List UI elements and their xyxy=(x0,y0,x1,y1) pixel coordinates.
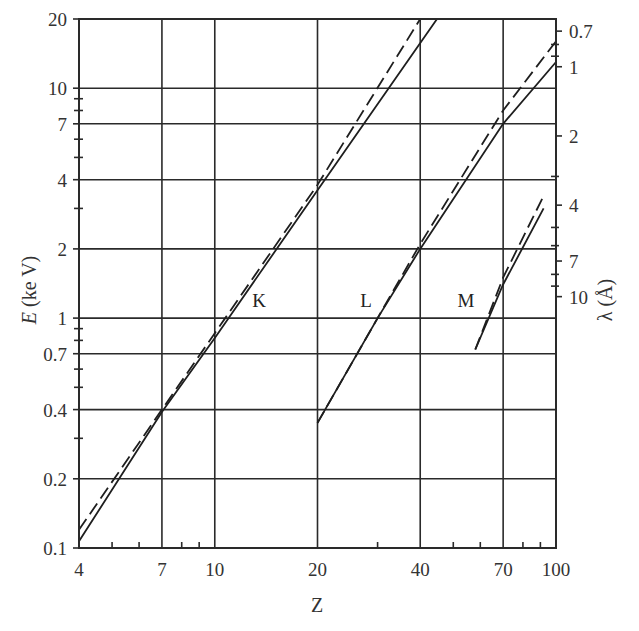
y-axis-title: E (ke V) xyxy=(18,256,41,326)
series-line-m-solid xyxy=(475,208,543,349)
series-line-l-dashed xyxy=(318,41,557,423)
x-tick-label: 100 xyxy=(542,559,571,580)
x-axis-title: Z xyxy=(311,594,323,616)
x-tick-label: 20 xyxy=(308,559,327,580)
xray-energy-vs-atomic-number-chart: 4710204070100 0.10.20.40.712471020 0.10.… xyxy=(0,0,639,631)
y-tick-label: 20 xyxy=(48,9,67,30)
y-tick-label: 2 xyxy=(58,239,68,260)
x-tick-label: 4 xyxy=(74,559,84,580)
y-right-tick-label: 2 xyxy=(569,126,579,147)
y-right-tick-label: 7 xyxy=(569,251,579,272)
y-tick-label: 0.1 xyxy=(43,538,67,559)
y-axis-title-unit: (ke V) xyxy=(18,256,41,312)
series-line-k-dashed xyxy=(79,19,420,530)
y-tick-label: 0.2 xyxy=(43,469,67,490)
y-axis-title-symbol: E xyxy=(18,312,40,325)
x-tick-label: 70 xyxy=(494,559,513,580)
y-tick-labels: 0.10.20.40.712471020 xyxy=(43,9,67,559)
x-tick-labels: 4710204070100 xyxy=(74,559,570,580)
y-right-tick-label: 1 xyxy=(569,57,579,78)
y-tick-label: 0.7 xyxy=(43,344,67,365)
y-tick-label: 4 xyxy=(58,170,68,191)
y-right-tick-label: 4 xyxy=(569,195,579,216)
x-tick-label: 7 xyxy=(157,559,167,580)
y-tick-label: 0.4 xyxy=(43,400,67,421)
series-label-l: L xyxy=(360,290,372,311)
y-right-tick-label: 10 xyxy=(569,287,588,308)
y-right-tick-label: 0.7 xyxy=(569,21,593,42)
y-tick-label: 7 xyxy=(58,114,68,135)
series-label-m: M xyxy=(458,290,475,311)
y-tick-label: 1 xyxy=(58,308,68,329)
series-label-k: K xyxy=(252,290,266,311)
series-line-k-solid xyxy=(79,19,437,541)
y-right-axis-title: λ (Å) xyxy=(594,279,617,321)
y-right-tick-labels: 0.10.20.40.7124710 xyxy=(569,0,593,308)
y-tick-label: 10 xyxy=(48,78,67,99)
x-tick-label: 40 xyxy=(411,559,430,580)
grid-lines xyxy=(79,19,556,548)
x-tick-label: 10 xyxy=(205,559,224,580)
